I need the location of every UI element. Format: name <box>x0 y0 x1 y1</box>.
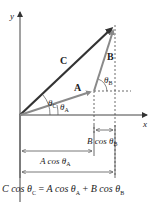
eq-term-b: B cos <box>91 183 115 194</box>
eq-plus: + <box>80 183 91 194</box>
vector-a-label: A <box>74 82 82 93</box>
eq-term-a: A cos <box>47 183 71 194</box>
eq-lhs: C cos <box>2 183 27 194</box>
a-cos-label: A cos θA <box>39 156 71 167</box>
theta-b-label: θB <box>104 75 112 86</box>
vector-c <box>20 29 111 115</box>
vector-c-label: C <box>60 55 67 66</box>
y-axis-label: y <box>9 11 14 21</box>
arc-theta-a <box>57 105 58 115</box>
vector-b-label: B <box>107 51 114 62</box>
theta-c-label: θC <box>48 98 56 109</box>
theta-a-label: θA <box>60 102 69 113</box>
component-equation: C cos θC = A cos θA + B cos θB <box>2 183 151 196</box>
x-axis-label: x <box>142 119 147 129</box>
eq-sub-b: B <box>120 190 124 196</box>
eq-equals: = <box>36 183 47 194</box>
vector-addition-diagram: y x C A B θC θA θB B cos θB A cos θA <box>0 0 151 202</box>
b-cos-label: B cos θB <box>87 136 117 147</box>
